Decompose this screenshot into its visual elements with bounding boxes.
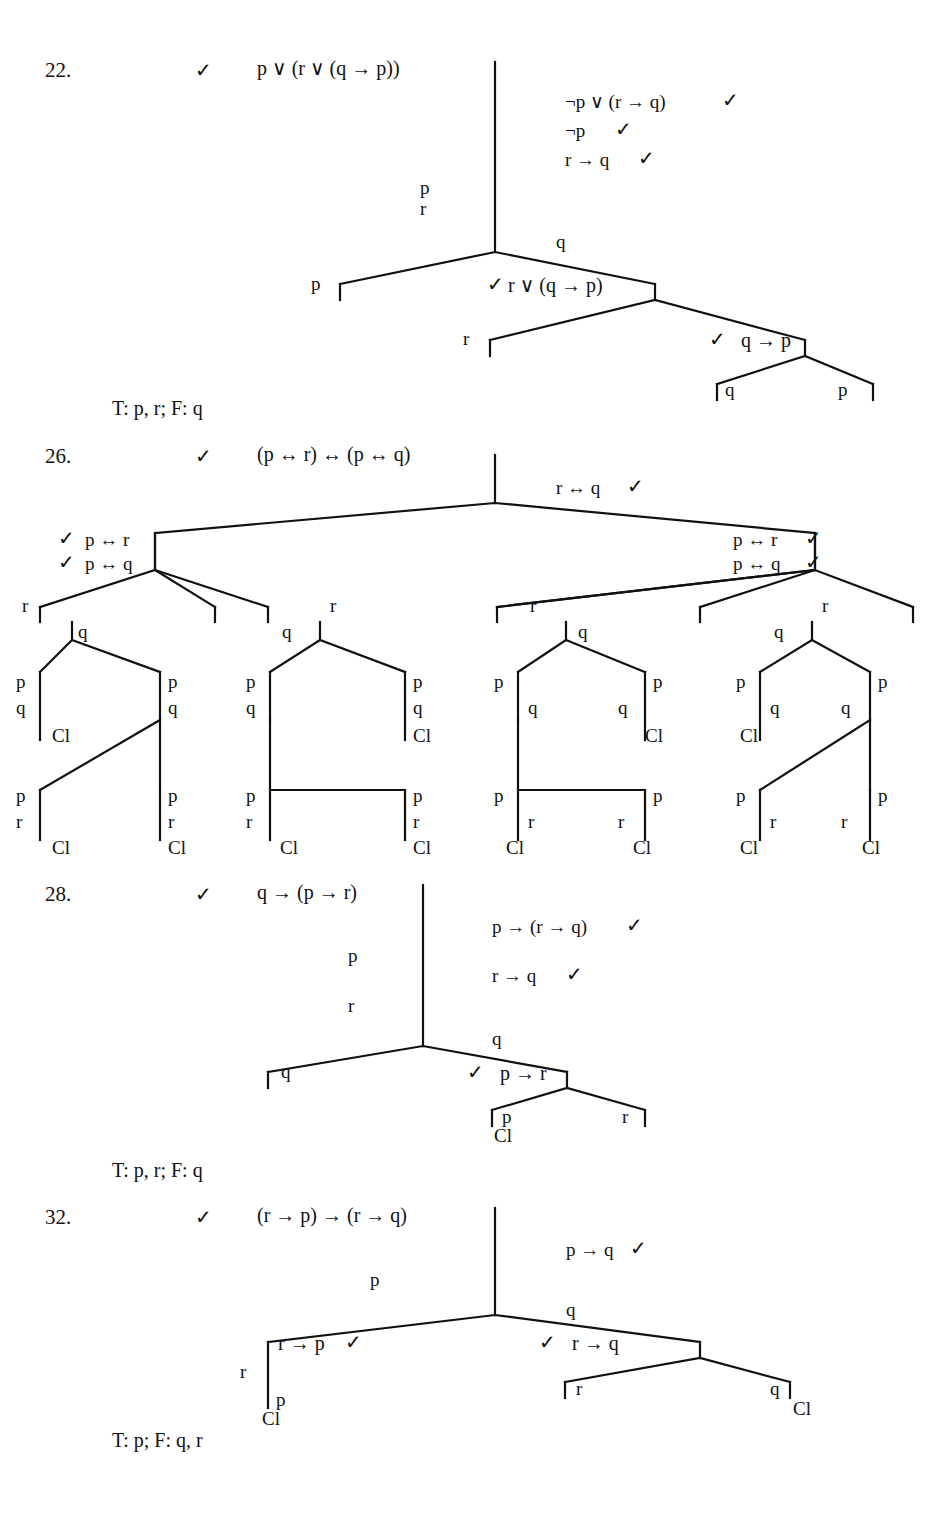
branch-22-left-p: p — [311, 274, 321, 293]
st1-n10-cl: Cl — [168, 838, 186, 857]
stack-28-1: r → q — [492, 966, 536, 985]
right-branch-26-0: p ↔ r — [733, 530, 777, 549]
st3-n5: p — [494, 786, 504, 805]
st1-n6: r — [16, 812, 22, 831]
st2-n9: r — [413, 812, 419, 831]
st1-n3: p — [168, 672, 178, 691]
st4-n7-cl: Cl — [740, 838, 758, 857]
branch-28-left-q: q — [281, 1062, 291, 1081]
answer-page: 22. ✓ p ∨ (r ∨ (q → p)) ¬p ∨ (r → q) ✓ ¬… — [0, 0, 934, 1529]
st2-n5: p — [246, 786, 256, 805]
st1-n5: p — [16, 786, 26, 805]
st2-n1: q — [246, 698, 256, 717]
st2-top-left: q — [282, 622, 292, 641]
right-branch-26-1-check: ✓ — [805, 552, 822, 572]
left-branch-26-0: p ↔ r — [85, 530, 129, 549]
st2-n2: p — [413, 672, 423, 691]
st3-n8: r — [618, 812, 624, 831]
stack-32-0-check: ✓ — [630, 1238, 647, 1258]
left-branch-26-1: p ↔ q — [85, 554, 133, 573]
st1-n4: q — [168, 698, 178, 717]
leaf-28-r: r — [622, 1107, 628, 1126]
branch-22-right-check: ✓ — [487, 274, 504, 294]
atom-28-q: q — [492, 1029, 502, 1048]
right-branch-26-1: p ↔ q — [733, 554, 781, 573]
branch-22-right-formula: r ∨ (q → p) — [508, 275, 603, 295]
atom-22-p: p — [420, 178, 430, 197]
root-formula-22: p ∨ (r ∨ (q → p)) — [257, 58, 400, 78]
stack-22-2-check: ✓ — [638, 148, 655, 168]
st3-n4-cl: Cl — [645, 726, 663, 745]
leaf-22-q: q — [725, 380, 735, 399]
st2-n7-cl: Cl — [280, 838, 298, 857]
root-check-28: ✓ — [195, 884, 212, 904]
stack-32-0: p → q — [566, 1240, 614, 1259]
problem-number-22: 22. — [45, 60, 71, 81]
tree-28 — [268, 885, 645, 1126]
st4-n3: q — [841, 698, 851, 717]
atom-28-p: p — [348, 946, 358, 965]
st2-n0: p — [246, 672, 256, 691]
conclusion-22: T: p, r; F: q — [112, 398, 203, 418]
problem-number-26: 26. — [45, 446, 71, 467]
branch-28-right-formula: p → r — [500, 1063, 547, 1083]
branch-32-right-check: ✓ — [539, 1332, 556, 1352]
atom-22-r: r — [420, 199, 426, 218]
st1-n0: p — [16, 672, 26, 691]
st4-n4: p — [878, 672, 888, 691]
problem-number-32: 32. — [45, 1207, 71, 1228]
root-check-22: ✓ — [195, 60, 212, 80]
st4-n6: r — [770, 812, 776, 831]
st1-n1: q — [16, 698, 26, 717]
branch-32-left-cl: Cl — [262, 1409, 280, 1428]
st3-n9: p — [653, 786, 663, 805]
root-formula-26: (p ↔ r) ↔ (p ↔ q) — [257, 444, 410, 464]
right-branch-26-0-check: ✓ — [805, 528, 822, 548]
branch-32-left-check: ✓ — [345, 1332, 362, 1352]
leaf-28-p-cl: Cl — [494, 1126, 512, 1145]
st1-n7-cl: Cl — [52, 838, 70, 857]
st4-top-right: r — [822, 596, 828, 615]
stack-28-0: p → (r → q) — [492, 917, 587, 936]
st2-n4-cl: Cl — [413, 726, 431, 745]
branch-32-left-formula: r → p — [278, 1333, 325, 1353]
st4-n2-cl: Cl — [740, 726, 758, 745]
branch-32-left-atom-p: p — [276, 1390, 286, 1409]
left-branch-26-1-check: ✓ — [58, 552, 75, 572]
st3-n0: p — [494, 672, 504, 691]
st3-n7-cl: Cl — [506, 838, 524, 857]
st2-top-right: r — [330, 596, 336, 615]
stack-28-0-check: ✓ — [626, 915, 643, 935]
stack-22-1-check: ✓ — [615, 119, 632, 139]
tree-diagrams — [0, 0, 934, 1529]
tree-26 — [40, 455, 913, 840]
st1-n2-cl: Cl — [52, 726, 70, 745]
st2-n6: r — [246, 812, 252, 831]
st1-top-left: r — [22, 596, 28, 615]
st2-n10-cl: Cl — [413, 838, 431, 857]
branch-32-left-atom-r: r — [240, 1362, 246, 1381]
st4-n0: p — [736, 672, 746, 691]
st2-n3: q — [413, 698, 423, 717]
conclusion-28: T: p, r; F: q — [112, 1160, 203, 1180]
atom-28-r: r — [348, 996, 354, 1015]
leaf-22-p: p — [838, 380, 848, 399]
tree-32 — [268, 1208, 790, 1408]
root-formula-28: q → (p → r) — [257, 882, 357, 902]
branch-22-b2-left-r: r — [463, 329, 469, 348]
st4-n8: r — [841, 812, 847, 831]
st4-top-left: q — [774, 622, 784, 641]
root-check-26: ✓ — [195, 446, 212, 466]
stack-22-0-check: ✓ — [722, 90, 739, 110]
atom-22-q: q — [556, 232, 566, 251]
stack-22-1: ¬p — [565, 121, 585, 140]
st1-n8: p — [168, 786, 178, 805]
st4-n9: p — [878, 786, 888, 805]
st4-n1: q — [770, 698, 780, 717]
atom-32-p: p — [370, 1270, 380, 1289]
stack-22-0: ¬p ∨ (r → q) — [565, 92, 666, 111]
st3-n6: r — [528, 812, 534, 831]
root-formula-32: (r → p) → (r → q) — [257, 1205, 407, 1225]
leaf-32-q-cl: Cl — [793, 1399, 811, 1418]
root-check-32: ✓ — [195, 1207, 212, 1227]
